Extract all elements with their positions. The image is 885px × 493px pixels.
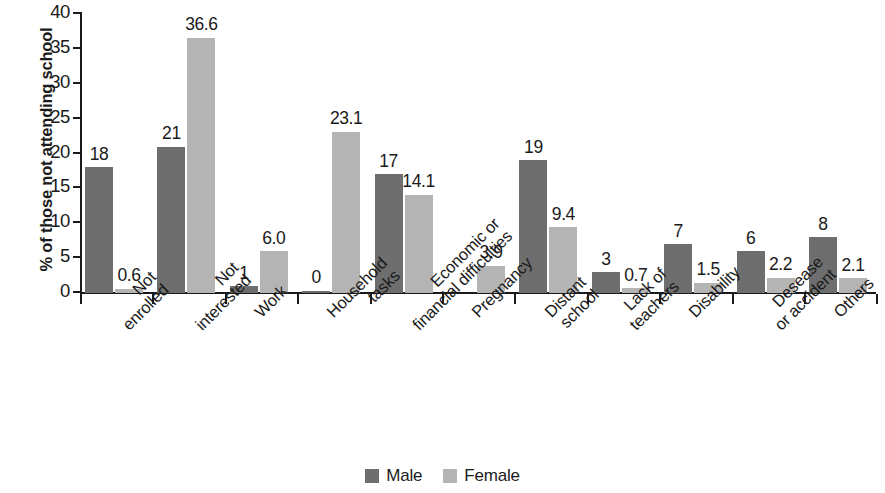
bar-group: 71.5 (659, 13, 731, 293)
bar-value-label: 2.1 (828, 257, 878, 275)
bar-group: 82.1 (804, 13, 876, 293)
bar-value-label: 14.1 (394, 173, 444, 191)
bar-group: 199.4 (514, 13, 586, 293)
x-axis-tick (732, 294, 734, 304)
bar-value-label: 7 (653, 223, 703, 241)
x-axis-tick (514, 294, 516, 304)
bar-value-label: 19 (508, 139, 558, 157)
bar-male (157, 147, 185, 293)
bar-value-label: 6 (726, 230, 776, 248)
bar-female (332, 132, 360, 293)
bar-female (187, 38, 215, 293)
bar-value-label: 18 (74, 146, 124, 164)
y-axis-tick-label: 35 (26, 38, 70, 57)
bar-value-label: 23.1 (321, 110, 371, 128)
y-axis-tick-label: 40 (26, 3, 70, 22)
legend-swatch-female-icon (443, 469, 457, 483)
bar-group: 180.6 (80, 13, 152, 293)
legend-entry-female: Female (443, 466, 520, 486)
bar-group: 023.1 (297, 13, 369, 293)
y-axis-tick-label: 25 (26, 108, 70, 127)
x-axis-tick (297, 294, 299, 304)
y-axis-tick-label: 5 (26, 247, 70, 266)
bar-chart: % of those not attending school 05101520… (0, 0, 885, 493)
legend-entry-male: Male (365, 466, 422, 486)
y-axis-tick-label: 10 (26, 212, 70, 231)
legend-swatch-male-icon (365, 469, 379, 483)
bar-value-label: 9.4 (538, 206, 588, 224)
chart-legend: MaleFemale (0, 466, 885, 486)
x-axis-tick (80, 294, 82, 304)
bar-value-label: 17 (364, 153, 414, 171)
bar-group: 62.2 (732, 13, 804, 293)
y-axis-tick-label: 30 (26, 73, 70, 92)
bar-value-label: 36.6 (176, 16, 226, 34)
bar-value-label: 6.0 (249, 230, 299, 248)
legend-label: Male (386, 466, 422, 486)
y-axis-tick-label: 20 (26, 143, 70, 162)
bar-male (302, 291, 330, 293)
bar-group: 2136.6 (152, 13, 224, 293)
legend-label: Female (464, 466, 520, 486)
y-axis-tick-label: 0 (26, 282, 70, 301)
bar-group: 1714.1 (370, 13, 442, 293)
y-axis-tick-label: 15 (26, 177, 70, 196)
bar-group: 30.7 (587, 13, 659, 293)
x-axis-tick (876, 294, 878, 304)
bar-group: 16.0 (225, 13, 297, 293)
bar-value-label: 8 (798, 216, 848, 234)
